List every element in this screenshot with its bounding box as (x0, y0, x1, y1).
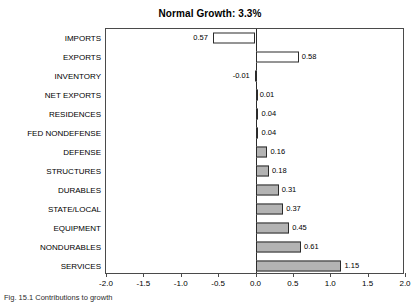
bar-row: DEFENSE0.16 (106, 143, 403, 162)
category-label: NONDURABLES (40, 242, 101, 251)
bar (256, 90, 258, 101)
x-axis-tick-label: 0.0 (250, 279, 261, 288)
x-axis-tick (368, 273, 369, 277)
bar (255, 71, 257, 82)
x-axis-tick-label: -1.0 (174, 279, 188, 288)
x-axis-tick-label: -2.0 (99, 279, 113, 288)
bar-value-label: 0.37 (286, 205, 301, 213)
category-label: STRUCTURES (46, 166, 101, 175)
bar-row: DURABLES0.31 (106, 180, 403, 199)
bar-value-label: 0.18 (272, 167, 287, 175)
bar (256, 203, 284, 214)
x-axis-tick-label: 1.5 (362, 279, 373, 288)
category-label: STATE/LOCAL (48, 204, 101, 213)
bar-value-label: 0.31 (282, 186, 297, 194)
bar (256, 146, 268, 157)
x-axis-tick-label: 2.0 (399, 279, 410, 288)
bar-value-label: -0.01 (233, 72, 250, 80)
bar (213, 33, 256, 44)
bar-row: NONDURABLES0.61 (106, 237, 403, 256)
bar (256, 241, 302, 252)
bar (256, 222, 290, 233)
bar (256, 165, 269, 176)
bar-row: RESIDENCES0.04 (106, 105, 403, 124)
category-label: NET EXPORTS (45, 91, 101, 100)
bar-value-label: 0.16 (270, 148, 285, 156)
category-label: FED NONDEFENSE (27, 129, 101, 138)
x-axis-tick (256, 273, 257, 277)
bar-row: SERVICES1.15 (106, 256, 403, 275)
category-label: EXPORTS (63, 53, 101, 62)
plot-area: IMPORTS0.57EXPORTS0.58INVENTORY-0.01NET … (105, 28, 404, 274)
bar-row: INVENTORY-0.01 (106, 67, 403, 86)
chart-title: Normal Growth: 3.3% (0, 8, 420, 19)
x-axis-tick-label: 0.5 (287, 279, 298, 288)
x-axis-tick (218, 273, 219, 277)
x-axis-tick-label: -1.5 (136, 279, 150, 288)
category-label: INVENTORY (55, 72, 101, 81)
bar-value-label: 0.45 (292, 224, 307, 232)
x-axis-tick (405, 273, 406, 277)
bar-value-label: 0.58 (302, 53, 317, 61)
category-label: EQUIPMENT (53, 223, 101, 232)
category-label: DEFENSE (63, 147, 101, 156)
bar-row: EXPORTS0.58 (106, 48, 403, 67)
x-axis-tick (181, 273, 182, 277)
x-axis-tick-label: -0.5 (211, 279, 225, 288)
x-axis-tick (330, 273, 331, 277)
bar-value-label: 0.61 (304, 243, 319, 251)
figure: Normal Growth: 3.3% IMPORTS0.57EXPORTS0.… (0, 0, 420, 302)
category-label: SERVICES (61, 261, 101, 270)
bar-row: IMPORTS0.57 (106, 29, 403, 48)
bar (256, 260, 342, 271)
bar-row: NET EXPORTS0.01 (106, 86, 403, 105)
category-label: DURABLES (58, 185, 101, 194)
x-axis-tick (293, 273, 294, 277)
bar-value-label: 0.04 (261, 110, 276, 118)
bar-value-label: 0.01 (260, 91, 275, 99)
category-label: IMPORTS (65, 34, 101, 43)
category-label: RESIDENCES (49, 110, 101, 119)
bar (256, 52, 299, 63)
x-axis-tick-label: 1.0 (325, 279, 336, 288)
bar-row: STRUCTURES0.18 (106, 161, 403, 180)
bar-value-label: 1.15 (344, 262, 359, 270)
bar (256, 184, 279, 195)
bar-row: STATE/LOCAL0.37 (106, 199, 403, 218)
bar-row: FED NONDEFENSE0.04 (106, 124, 403, 143)
bar (256, 128, 259, 139)
x-axis-tick (143, 273, 144, 277)
bar-value-label: 0.57 (193, 34, 208, 42)
bar-row: EQUIPMENT0.45 (106, 218, 403, 237)
bar-value-label: 0.04 (261, 129, 276, 137)
x-axis-tick (106, 273, 107, 277)
figure-caption: Fig. 15.1 Contributions to growth (4, 293, 112, 302)
bar (256, 109, 259, 120)
